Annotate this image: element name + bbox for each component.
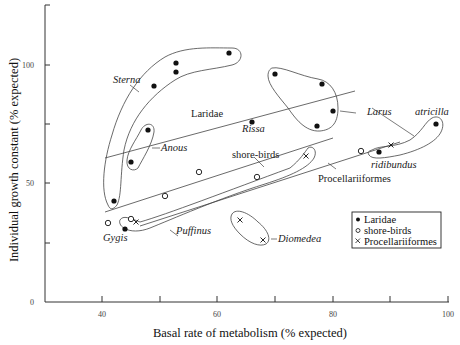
label-rissa: Rissa xyxy=(241,123,265,134)
label-anous: Anous xyxy=(160,142,187,153)
label-gygis: Gygis xyxy=(103,232,128,243)
label-procellariiformes: Procellariiformes xyxy=(318,173,391,184)
label-larus: Larus xyxy=(366,106,392,117)
label-atricilla: atricilla xyxy=(415,106,449,117)
x-tick-label: 100 xyxy=(442,310,454,319)
y-axis xyxy=(45,5,50,302)
puffinus-outline xyxy=(120,147,316,231)
legend-label-shorebirds: shore-birds xyxy=(364,225,411,236)
label-shorebirds: shore-birds xyxy=(232,149,279,160)
x-axis-title: Basal rate of metabolism (% expected) xyxy=(153,326,347,340)
x-tick-label: 40 xyxy=(98,310,106,319)
y-tick-label: 50 xyxy=(26,179,34,188)
legend-shorebirds-marker xyxy=(356,229,360,233)
legend-label-procellariiformes: Procellariiformes xyxy=(364,236,437,247)
label-sterna: Sterna xyxy=(113,74,140,85)
larus-outline xyxy=(268,68,338,131)
y-tick-label: 100 xyxy=(22,61,34,70)
y-tick-label: 0 xyxy=(30,298,34,307)
legend-label-laridae: Laridae xyxy=(364,214,396,225)
label-laridae: Laridae xyxy=(191,108,223,119)
sterna-outline xyxy=(104,48,241,209)
legend-laridae-marker xyxy=(356,218,360,222)
label-diomedea: Diomedea xyxy=(277,233,321,244)
laridae-points xyxy=(111,50,438,231)
label-puffinus: Puffinus xyxy=(175,225,211,236)
label-ridibundus: ridibundus xyxy=(371,159,417,170)
scatter-chart: 100 50 0 40 60 80 100 Basal rate of meta… xyxy=(0,0,460,345)
x-tick-label: 60 xyxy=(213,310,221,319)
x-tick-label: 80 xyxy=(329,310,337,319)
y-axis-title: Individual growth constant (% expected) xyxy=(7,58,21,262)
legend: Laridae shore-birds Procellariiformes xyxy=(352,212,441,248)
x-axis xyxy=(45,296,449,302)
